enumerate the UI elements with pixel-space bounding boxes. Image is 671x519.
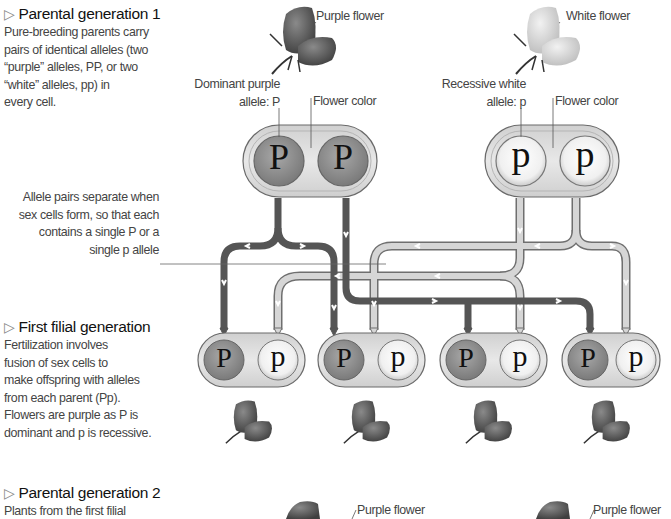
heading-text: Parental generation 2: [18, 484, 160, 501]
allele-letter: P: [327, 136, 359, 178]
body-line: Flowers are purple as P is: [4, 407, 151, 425]
label-flower-color-right: Flower color: [555, 93, 618, 111]
heading-text: First filial generation: [18, 318, 150, 335]
label-purple-flower: Purple flower: [316, 8, 384, 26]
label-line: Recessive white: [424, 76, 526, 94]
label-flower-color-left: Flower color: [313, 93, 376, 111]
section-first-filial-generation: ▷First filial generation Fertilization i…: [4, 318, 151, 442]
body-line: from each parent (Pp).: [4, 390, 151, 408]
section-parental-generation-1: ▷Parental generation 1 Pure-breeding par…: [4, 5, 160, 112]
label-white-flower: White flower: [566, 8, 630, 26]
label-bottom-purple-flower-left: Purple flower: [357, 502, 425, 519]
body-line: make offspring with alleles: [4, 372, 151, 390]
callout-allele-separation: Allele pairs separate when sex cells for…: [0, 189, 159, 259]
body-line: Pure-breeding parents carry: [4, 24, 160, 42]
allele-letter: P: [576, 342, 600, 374]
label-line: Dominant purple: [178, 76, 280, 94]
bottom-flower-icon-left: [286, 501, 320, 519]
body-line: fusion of sex cells to: [4, 355, 151, 373]
body-line: single p allele: [0, 242, 159, 260]
section-parental-generation-2: ▷Parental generation 2 Plants from the f…: [4, 484, 160, 519]
body-line: “purple” alleles, PP, or two: [4, 59, 160, 77]
label-line: allele: p: [424, 94, 526, 112]
body-line: “white” alleles, pp) in: [4, 77, 160, 95]
allele-letter: P: [454, 342, 478, 374]
label-bottom-purple-flower-right: Purple flower: [593, 502, 661, 519]
section-heading: ▷Parental generation 1: [4, 5, 160, 23]
triangle-bullet-icon: ▷: [4, 6, 14, 22]
bottom-flower-icon-right: [536, 501, 570, 519]
offspring-flower-icon-2: [344, 400, 390, 443]
label-recessive-allele: Recessive white allele: p: [424, 76, 526, 111]
offspring-flower-icon-3: [466, 400, 512, 443]
allele-letter: P: [212, 342, 236, 374]
allele-letter: p: [569, 132, 601, 176]
body-line: every cell.: [4, 94, 160, 112]
section-heading: ▷Parental generation 2: [4, 484, 160, 502]
body-line: sex cells form, so that each: [0, 207, 159, 225]
offspring-flower-icon-4: [584, 400, 630, 443]
heading-text: Parental generation 1: [18, 5, 160, 22]
section-heading: ▷First filial generation: [4, 318, 151, 336]
section-body: Plants from the first filial: [4, 503, 160, 519]
body-line: Fertilization involves: [4, 337, 151, 355]
body-line: dominant and p is recessive.: [4, 425, 151, 443]
section-body: Pure-breeding parents carry pairs of ide…: [4, 24, 160, 112]
allele-letter: p: [508, 339, 532, 373]
offspring-flowers: [226, 400, 630, 443]
body-line: contains a single P or a: [0, 224, 159, 242]
bottom-flowers: [286, 501, 594, 519]
allele-letter: P: [263, 136, 295, 178]
label-dominant-allele: Dominant purple allele: P: [178, 76, 280, 111]
offspring-flower-icon-1: [226, 400, 272, 443]
allele-letter: p: [386, 339, 410, 373]
body-line: Plants from the first filial: [4, 503, 160, 519]
allele-letter: p: [505, 132, 537, 176]
body-line: Allele pairs separate when: [0, 189, 159, 207]
section-body: Fertilization involves fusion of sex cel…: [4, 337, 151, 442]
allele-letter: P: [332, 342, 356, 374]
label-line: allele: P: [178, 94, 280, 112]
triangle-bullet-icon: ▷: [4, 319, 14, 335]
allele-letter: p: [266, 339, 290, 373]
triangle-bullet-icon: ▷: [4, 485, 14, 501]
body-line: pairs of identical alleles (two: [4, 42, 160, 60]
allele-letter: p: [624, 339, 648, 373]
